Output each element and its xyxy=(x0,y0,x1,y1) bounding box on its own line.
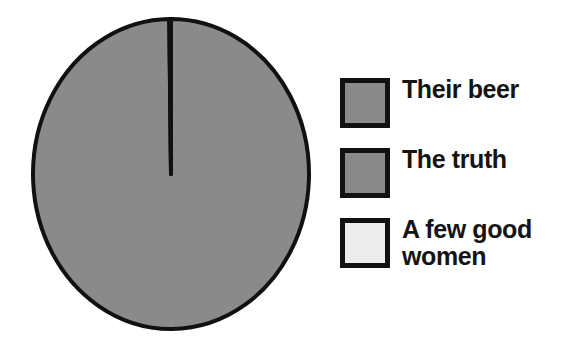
pie-svg xyxy=(30,16,312,332)
legend-swatch-the-truth xyxy=(340,148,390,198)
pie-plot-area xyxy=(30,16,312,332)
pie-slices xyxy=(33,19,309,329)
chart-legend: Their beer The truth A few good women xyxy=(340,76,568,270)
legend-label-a-few-good-women: A few good women xyxy=(402,216,562,270)
legend-swatch-a-few-good-women xyxy=(340,218,390,268)
pie-chart-figure: Their beer The truth A few good women xyxy=(0,0,573,352)
legend-item-a-few-good-women[interactable]: A few good women xyxy=(340,216,568,270)
legend-swatch-their-beer xyxy=(340,78,390,128)
legend-label-their-beer: Their beer xyxy=(402,76,519,103)
legend-item-the-truth[interactable]: The truth xyxy=(340,146,568,198)
pie-slice-a-few-good-women[interactable] xyxy=(170,19,171,174)
legend-label-the-truth: The truth xyxy=(402,146,507,173)
legend-item-their-beer[interactable]: Their beer xyxy=(340,76,568,128)
